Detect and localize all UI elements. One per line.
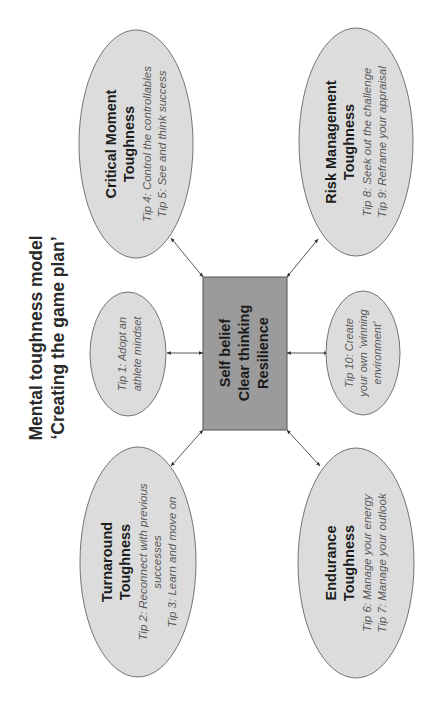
connector-turnaround — [171, 430, 203, 466]
connector-critical-moment — [171, 238, 203, 277]
center-line-3: Resilience — [255, 317, 271, 389]
node-critical-moment: Critical Moment Toughness Tip 4: Control… — [79, 30, 193, 258]
tip1-ellipse — [90, 292, 166, 416]
turnaround-tip-2: Tip 2: Reconnect with previous — [137, 483, 149, 640]
risk-management-heading-1: Risk Management — [323, 80, 339, 203]
center-line-2: Clear thinking — [236, 305, 252, 402]
tip10-line-3: environment’ — [371, 321, 383, 385]
turnaround-heading-2: Toughness — [117, 524, 133, 600]
connector-risk-management — [287, 239, 318, 277]
critical-moment-tip-4: Tip 4: Control the controllables — [141, 66, 153, 222]
turnaround-tip-2-cont: successes — [151, 535, 163, 589]
critical-moment-heading-1: Critical Moment — [103, 89, 119, 198]
node-risk-management: Risk Management Toughness Tip 8: Seek ou… — [299, 28, 413, 256]
critical-moment-heading-2: Toughness — [121, 106, 137, 182]
turnaround-tip-3: Tip 3: Learn and move on — [166, 497, 178, 628]
title-line-1: Mental toughness model — [26, 235, 46, 440]
risk-management-tip-9: Tip 9: Reframe your appraisal — [376, 66, 388, 218]
endurance-tip-7: Tip 7: Manage your outlook — [376, 492, 388, 633]
node-endurance: Endurance Toughness Tip 6: Manage your e… — [298, 448, 414, 678]
endurance-tip-6: Tip 6: Manage your energy — [361, 493, 373, 632]
center-node: Self belief Clear thinking Resilience — [203, 277, 287, 430]
endurance-heading-2: Toughness — [341, 525, 357, 601]
critical-moment-tip-5: Tip 5: See and think success — [156, 70, 168, 217]
endurance-heading-1: Endurance — [323, 526, 339, 601]
diagram-title: Mental toughness model ‘Creating the gam… — [26, 235, 68, 440]
title-line-2: ‘Creating the game plan’ — [48, 236, 68, 439]
connector-endurance — [287, 430, 320, 466]
tip1-line-1: Tip 1: Adopt an — [116, 317, 128, 391]
risk-management-tip-8: Tip 8: Seek out the challenge — [361, 68, 373, 217]
tip10-line-2: your own ‘winning — [357, 308, 369, 397]
node-tip10: Tip 10: Create your own ‘winning environ… — [326, 291, 400, 415]
tip10-line-1: Tip 10: Create — [343, 318, 355, 388]
center-line-1: Self belief — [217, 319, 233, 388]
tip1-line-2: athlete mindset — [131, 316, 143, 392]
node-tip1: Tip 1: Adopt an athlete mindset — [90, 292, 166, 416]
mental-toughness-diagram: Mental toughness model ‘Creating the gam… — [0, 0, 428, 716]
node-turnaround: Turnaround Toughness Tip 2: Reconnect wi… — [80, 447, 196, 677]
risk-management-heading-2: Toughness — [341, 104, 357, 180]
turnaround-heading-1: Turnaround — [99, 522, 115, 602]
